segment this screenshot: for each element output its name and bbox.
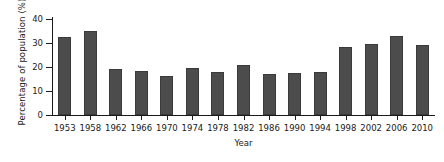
x-tick-label: 1982 <box>233 123 255 133</box>
bar-chart: Percentage of population (%) 010203040 1… <box>0 0 444 162</box>
y-tick-label: 20 <box>32 62 43 72</box>
x-tick <box>371 115 372 120</box>
y-tick-label: 30 <box>32 38 43 48</box>
bar <box>109 69 122 115</box>
bar <box>365 44 378 115</box>
x-tick <box>167 115 168 120</box>
x-tick <box>346 115 347 120</box>
y-tick: 10 <box>46 91 52 92</box>
bar <box>339 47 352 115</box>
y-tick-label: 0 <box>38 110 43 120</box>
x-tick <box>397 115 398 120</box>
x-tick-label: 1998 <box>335 123 357 133</box>
x-tick <box>218 115 219 120</box>
x-tick-label: 1974 <box>182 123 204 133</box>
x-tick-label: 1953 <box>54 123 76 133</box>
x-tick <box>192 115 193 120</box>
x-tick <box>65 115 66 120</box>
y-tick: 0 <box>46 115 52 116</box>
bar <box>288 73 301 115</box>
x-tick-label: 1966 <box>131 123 153 133</box>
bar <box>160 76 173 115</box>
y-tick: 40 <box>46 19 52 20</box>
x-tick-label: 1994 <box>309 123 331 133</box>
bar <box>314 72 327 115</box>
y-tick: 20 <box>46 67 52 68</box>
y-axis-line <box>52 17 53 116</box>
bar <box>135 71 148 115</box>
x-tick-label: 2006 <box>386 123 408 133</box>
x-tick-label: 1970 <box>156 123 178 133</box>
bar <box>390 36 403 115</box>
x-tick-label: 1978 <box>207 123 229 133</box>
x-tick <box>90 115 91 120</box>
bar <box>263 74 276 115</box>
x-tick <box>320 115 321 120</box>
x-tick <box>244 115 245 120</box>
x-tick <box>422 115 423 120</box>
x-tick-label: 1962 <box>105 123 127 133</box>
x-tick-label: 1990 <box>284 123 306 133</box>
x-tick <box>269 115 270 120</box>
x-tick <box>295 115 296 120</box>
bar <box>58 37 71 115</box>
bar <box>416 45 429 115</box>
bar <box>84 31 97 115</box>
x-tick-label: 1986 <box>258 123 280 133</box>
x-tick-label: 1958 <box>79 123 101 133</box>
bar <box>186 68 199 115</box>
x-tick <box>116 115 117 120</box>
x-tick-label: 2002 <box>360 123 382 133</box>
x-axis-label: Year <box>52 138 435 148</box>
y-tick-label: 40 <box>32 14 43 24</box>
bar <box>211 72 224 115</box>
x-tick-label: 2010 <box>411 123 433 133</box>
y-tick: 30 <box>46 43 52 44</box>
bar <box>237 65 250 115</box>
y-axis-label: Percentage of population (%) <box>17 0 27 130</box>
x-tick <box>141 115 142 120</box>
y-tick-label: 10 <box>32 86 43 96</box>
